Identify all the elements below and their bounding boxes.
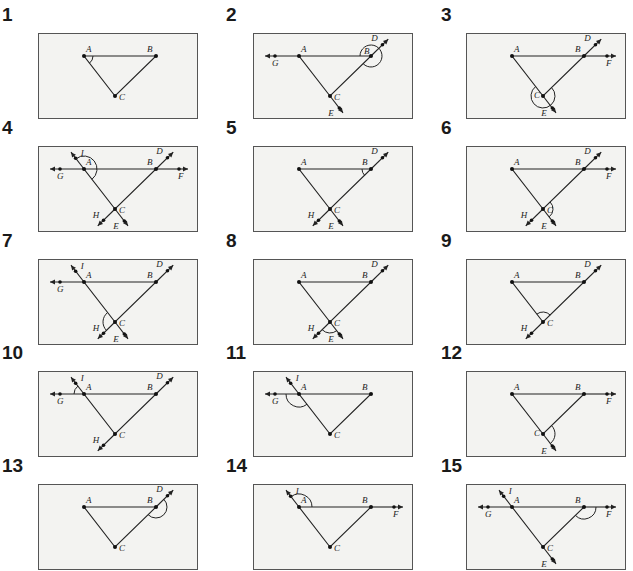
arrowhead-g-icon xyxy=(50,280,55,285)
point-d-dot xyxy=(381,43,385,47)
label-e: E xyxy=(540,446,547,456)
exercise-number: 10 xyxy=(2,342,23,364)
point-d-dot xyxy=(166,269,170,273)
label-c: C xyxy=(334,430,341,440)
label-c: C xyxy=(547,318,554,328)
label-f: F xyxy=(605,58,612,68)
exercise-number: 14 xyxy=(226,455,247,477)
point-a-dot xyxy=(82,280,86,284)
point-a-dot xyxy=(510,280,514,284)
triangle-diagram: ABCDEH xyxy=(254,147,414,233)
triangle-diagram: ABCDEG xyxy=(254,34,414,120)
point-e-dot xyxy=(123,219,127,223)
label-d: D xyxy=(155,484,163,494)
label-b: B xyxy=(575,157,581,167)
point-h-dot xyxy=(102,218,106,222)
point-a-dot xyxy=(82,392,86,396)
triangle-diagram: ABCGI xyxy=(254,372,414,458)
triangle-abc xyxy=(84,282,156,322)
arrowhead-f-icon xyxy=(611,167,616,172)
label-d: D xyxy=(155,146,163,156)
angle-arc xyxy=(74,386,78,394)
point-d-dot xyxy=(166,494,170,498)
point-b-dot xyxy=(154,54,158,58)
label-b: B xyxy=(575,44,581,54)
label-d: D xyxy=(583,146,591,156)
label-e: E xyxy=(540,221,547,231)
point-e-dot xyxy=(551,444,555,448)
label-h: H xyxy=(307,210,315,220)
label-c: C xyxy=(534,428,541,438)
point-c-dot xyxy=(113,545,117,549)
label-h: H xyxy=(92,323,100,333)
point-d-dot xyxy=(594,43,598,47)
point-i-dot xyxy=(289,381,293,385)
exercise-number: 7 xyxy=(2,230,13,252)
diagram-panel-6: ABCDEFH xyxy=(466,146,626,232)
label-c: C xyxy=(119,543,126,553)
point-b-dot xyxy=(582,54,586,58)
point-i-dot xyxy=(74,269,78,273)
point-b-dot xyxy=(369,505,373,509)
point-a-dot xyxy=(297,280,301,284)
arrowhead-f-icon xyxy=(611,505,616,510)
triangle-diagram: ABCDEGHI xyxy=(39,260,199,346)
point-d-dot xyxy=(381,156,385,160)
arrowhead-g-icon xyxy=(50,392,55,397)
point-b-dot xyxy=(369,54,373,58)
triangle-abc xyxy=(84,507,156,547)
triangle-diagram: ABCEFGI xyxy=(467,485,627,571)
exercise-number: 5 xyxy=(226,117,237,139)
triangle-abc xyxy=(299,394,371,434)
label-g: G xyxy=(57,171,64,181)
label-a: A xyxy=(85,44,92,54)
point-b-dot xyxy=(582,505,586,509)
label-a: A xyxy=(300,44,307,54)
exercise-number: 2 xyxy=(226,4,237,26)
label-a: A xyxy=(513,270,520,280)
point-a-dot xyxy=(297,505,301,509)
label-g: G xyxy=(57,284,64,294)
point-a-dot xyxy=(82,505,86,509)
label-a: A xyxy=(513,157,520,167)
triangle-diagram: ABC xyxy=(39,34,199,120)
label-b: B xyxy=(362,270,368,280)
point-e-dot xyxy=(551,219,555,223)
arrowhead-f-icon xyxy=(611,54,616,59)
diagram-panel-14: ABCFI xyxy=(253,484,413,570)
point-b-dot xyxy=(154,392,158,396)
label-d: D xyxy=(155,259,163,269)
point-c-dot xyxy=(113,207,117,211)
point-c-dot xyxy=(541,94,545,98)
point-h-dot xyxy=(317,218,321,222)
point-b-dot xyxy=(154,505,158,509)
label-e: E xyxy=(327,221,334,231)
label-d: D xyxy=(370,33,378,43)
label-a: A xyxy=(513,382,520,392)
label-h: H xyxy=(520,210,528,220)
triangle-diagram: ABCDEH xyxy=(254,260,414,346)
exercise-number: 3 xyxy=(441,4,452,26)
label-i: I xyxy=(80,261,85,271)
angle-arc xyxy=(550,426,555,444)
diagram-panel-7: ABCDEGHI xyxy=(38,259,198,345)
label-b: B xyxy=(362,495,368,505)
label-e: E xyxy=(327,334,334,344)
label-d: D xyxy=(370,146,378,156)
label-b: B xyxy=(364,46,370,56)
point-a-dot xyxy=(510,392,514,396)
triangle-abc xyxy=(299,169,371,209)
point-d-dot xyxy=(381,269,385,273)
point-h-dot xyxy=(530,218,534,222)
point-c-dot xyxy=(328,432,332,436)
label-h: H xyxy=(92,210,100,220)
point-b-dot xyxy=(369,280,373,284)
point-a-dot xyxy=(297,167,301,171)
label-g: G xyxy=(272,396,279,406)
point-b-dot xyxy=(154,167,158,171)
point-e-dot xyxy=(338,219,342,223)
exercise-number: 6 xyxy=(441,117,452,139)
label-a: A xyxy=(85,157,92,167)
diagram-panel-10: ABCDGHI xyxy=(38,371,198,457)
point-c-dot xyxy=(541,207,545,211)
